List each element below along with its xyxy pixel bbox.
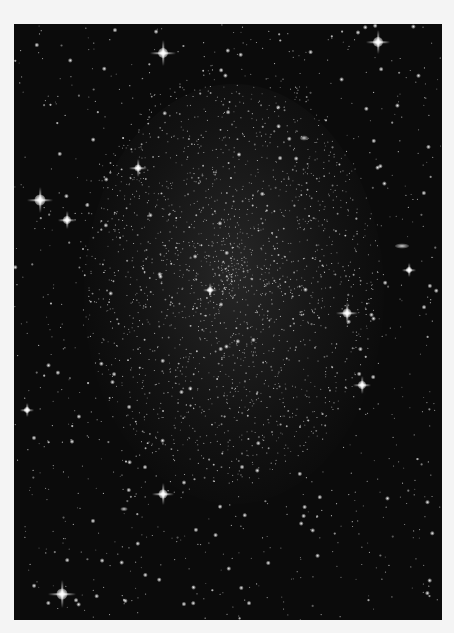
background-galaxy [121,507,128,511]
background-galaxy [300,136,308,141]
faint-stars-layer [14,24,442,620]
starfield-photo [14,24,442,620]
background-galaxy [395,244,409,249]
